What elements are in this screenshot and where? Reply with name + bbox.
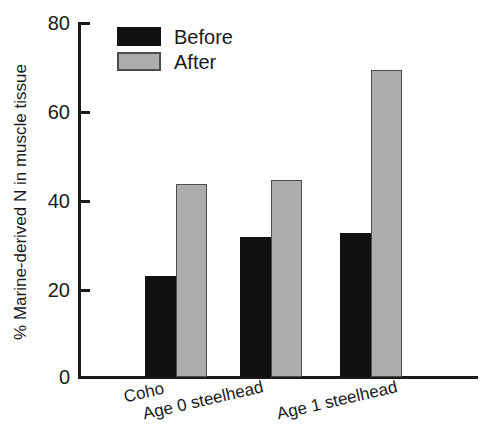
bar-age0-steelhead-before: [240, 237, 271, 377]
legend-item-after: After: [117, 49, 233, 74]
y-tick-label-0: 0: [26, 367, 70, 387]
y-tick-label-40: 40: [26, 191, 70, 211]
bar-age1-steelhead-before: [340, 233, 371, 377]
bar-chart: % Marine-derived N in muscle tissue 80 6…: [0, 0, 482, 442]
bar-coho-after: [176, 184, 207, 377]
bar-age0-steelhead-after: [271, 180, 302, 377]
plot-area: [78, 23, 478, 377]
legend-swatch-before-icon: [117, 27, 161, 46]
x-tick-label-age-1-steelhead: Age 1 steelhead: [275, 377, 399, 424]
bar-coho-before: [145, 276, 176, 377]
legend-label-after: After: [174, 52, 216, 72]
y-tick-label-80: 80: [26, 13, 70, 33]
legend-swatch-after-icon: [117, 52, 161, 71]
bar-age1-steelhead-after: [371, 70, 402, 377]
legend-item-before: Before: [117, 24, 233, 49]
legend: Before After: [117, 24, 233, 74]
y-tick-label-20: 20: [26, 280, 70, 300]
y-tick-label-60: 60: [26, 102, 70, 122]
legend-label-before: Before: [174, 27, 233, 47]
